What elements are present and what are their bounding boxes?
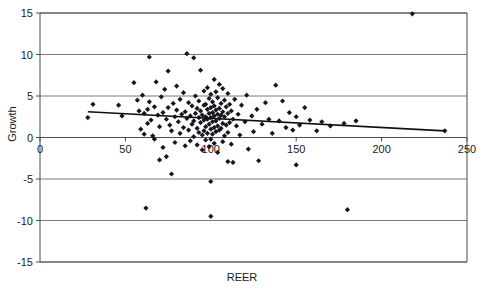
data-point <box>246 147 251 152</box>
data-point <box>220 139 225 144</box>
x-tick-label: 0 <box>37 143 43 155</box>
data-point <box>164 154 169 159</box>
data-point <box>152 104 157 109</box>
x-tick-labels: 050100150200250 <box>37 143 476 155</box>
x-tick-label: 250 <box>458 143 476 155</box>
data-point <box>225 91 230 96</box>
data-point <box>159 94 164 99</box>
data-point <box>254 107 259 112</box>
data-point <box>410 11 415 16</box>
data-point <box>166 69 171 74</box>
data-point <box>157 124 162 129</box>
data-point <box>280 98 285 103</box>
data-point <box>232 97 237 102</box>
data-point <box>167 122 172 127</box>
data-point <box>208 179 213 184</box>
data-point <box>220 86 225 91</box>
data-point <box>189 103 194 108</box>
data-point <box>162 87 167 92</box>
data-point <box>270 131 275 136</box>
data-point <box>188 138 193 143</box>
data-point <box>259 122 264 127</box>
data-point <box>166 105 171 110</box>
data-point <box>230 160 235 165</box>
data-point <box>302 105 307 110</box>
data-point <box>212 77 217 82</box>
data-point <box>131 80 136 85</box>
data-point <box>195 142 200 147</box>
chart-canvas: 050100150200250 -15-10-5051015 REER Grow… <box>0 0 484 290</box>
data-point <box>116 103 121 108</box>
data-point <box>183 143 188 148</box>
y-tick-label: 15 <box>21 7 33 19</box>
data-point <box>176 119 181 124</box>
data-point <box>191 55 196 60</box>
y-axis-title: Growth <box>6 106 18 141</box>
data-point <box>193 111 198 116</box>
y-tick-label: -15 <box>17 256 33 268</box>
y-tick-label: 10 <box>21 49 33 61</box>
y-tick-label: 5 <box>27 90 33 102</box>
data-point <box>181 90 186 95</box>
data-point <box>294 162 299 167</box>
data-point <box>145 121 150 126</box>
data-point <box>157 157 162 162</box>
data-point <box>205 85 210 90</box>
data-point <box>148 117 153 122</box>
data-point <box>186 127 191 132</box>
data-point <box>234 123 239 128</box>
scatter-chart: 050100150200250 -15-10-5051015 REER Grow… <box>0 0 484 290</box>
gridlines <box>40 13 467 262</box>
y-tick-labels: -15-10-5051015 <box>17 7 33 268</box>
data-point <box>169 128 174 133</box>
y-tick-marks <box>36 13 40 262</box>
data-point <box>90 102 95 107</box>
data-point <box>345 207 350 212</box>
data-point <box>164 117 169 122</box>
data-point <box>142 132 147 137</box>
data-point <box>353 118 358 123</box>
data-point <box>138 127 143 132</box>
x-tick-label: 100 <box>202 143 220 155</box>
data-point <box>256 158 261 163</box>
data-point <box>169 171 174 176</box>
data-point <box>171 101 176 106</box>
data-point <box>237 132 242 137</box>
data-point <box>218 101 223 106</box>
data-point <box>213 89 218 94</box>
data-point <box>193 93 198 98</box>
data-point <box>314 128 319 133</box>
data-point <box>283 125 288 130</box>
data-point <box>225 159 230 164</box>
x-tick-label: 150 <box>287 143 305 155</box>
data-point <box>251 129 256 134</box>
data-point <box>147 54 152 59</box>
x-tick-marks <box>40 138 467 142</box>
data-point <box>287 110 292 115</box>
data-point <box>239 103 244 108</box>
x-tick-label: 50 <box>119 143 131 155</box>
data-point <box>135 98 140 103</box>
data-point <box>147 99 152 104</box>
data-point <box>174 83 179 88</box>
data-point <box>154 79 159 84</box>
data-point <box>217 82 222 87</box>
data-point <box>145 107 150 112</box>
data-point <box>186 100 191 105</box>
data-point <box>249 113 254 118</box>
data-point <box>263 100 268 105</box>
data-point <box>307 117 312 122</box>
data-point <box>181 125 186 130</box>
data-point <box>177 131 182 136</box>
data-point <box>294 114 299 119</box>
data-point <box>198 68 203 73</box>
y-tick-label: -10 <box>17 215 33 227</box>
data-point <box>229 142 234 147</box>
data-point <box>208 214 213 219</box>
data-point <box>273 83 278 88</box>
data-point <box>236 112 241 117</box>
data-point <box>184 51 189 56</box>
data-point <box>177 97 182 102</box>
data-point <box>225 130 230 135</box>
data-point <box>85 115 90 120</box>
